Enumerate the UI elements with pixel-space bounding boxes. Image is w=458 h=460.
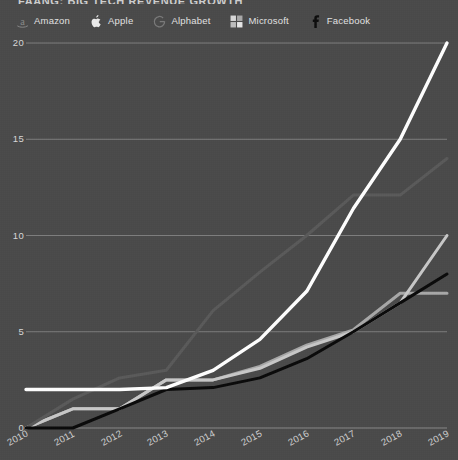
y-axis-tick-label: 5 [0,326,24,337]
legend-label: Apple [108,15,133,26]
chart-plot-area [0,30,458,460]
legend-label: Amazon [34,15,70,26]
apple-logo-icon [90,14,103,27]
series-line-facebook[interactable] [26,274,447,428]
y-axis-tick-label: 20 [0,37,24,48]
series-line-alphabet[interactable] [26,159,447,429]
legend-item-amazon[interactable]: a Amazon [16,14,70,27]
legend-label: Microsoft [248,15,288,26]
series-line-amazon[interactable] [26,43,447,390]
y-axis-tick-label: 10 [0,230,24,241]
chart-legend: a Amazon Apple Alphabet [16,11,390,29]
microsoft-squares-icon [230,14,243,27]
amazon-a-icon: a [16,14,29,27]
legend-label: Alphabet [171,15,210,26]
legend-item-apple[interactable]: Apple [90,14,133,27]
svg-text:a: a [20,15,25,26]
google-g-icon [153,14,166,27]
legend-item-alphabet[interactable]: Alphabet [153,14,210,27]
page-title: FAANG: BIG TECH REVENUE GROWTH [18,0,243,4]
facebook-f-icon [309,14,322,27]
legend-label: Facebook [327,15,370,26]
line-chart: 05101520 2010201120122013201420152016201… [0,30,458,460]
y-axis-tick-label: 15 [0,133,24,144]
legend-item-microsoft[interactable]: Microsoft [230,14,288,27]
legend-item-facebook[interactable]: Facebook [309,14,370,27]
